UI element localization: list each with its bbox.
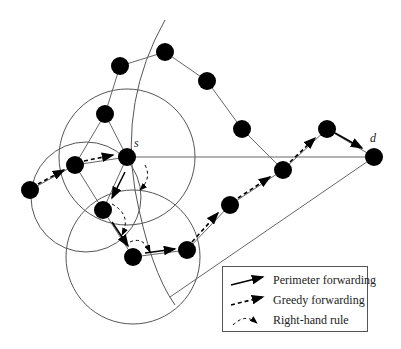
- dashed-arc-arrow-icon: [229, 311, 269, 329]
- destination-label: d: [370, 131, 376, 146]
- legend-label: Perimeter forwarding: [273, 273, 376, 288]
- legend-item-perimeter: Perimeter forwarding: [223, 271, 369, 291]
- legend-label: Greedy forwarding: [273, 293, 365, 308]
- edges: [30, 52, 374, 297]
- legend-label: Right-hand rule: [273, 313, 349, 328]
- source-label: s: [134, 136, 139, 151]
- solid-arrow-icon: [229, 271, 269, 289]
- nodes: [21, 43, 383, 266]
- legend-item-greedy: Greedy forwarding: [223, 291, 369, 311]
- legend-item-right-hand: Right-hand rule: [223, 311, 369, 331]
- perimeter-forwarding-arrows: [112, 133, 362, 253]
- radio-range-circles: [31, 89, 200, 324]
- legend: Perimeter forwarding Greedy forwarding R…: [222, 266, 368, 332]
- dashed-arrow-icon: [229, 291, 269, 309]
